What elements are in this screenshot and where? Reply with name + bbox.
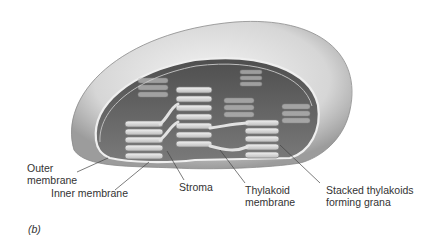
panel-label: (b) [28,223,41,235]
chloroplast-diagram [0,0,431,246]
label-outer-membrane-line2: membrane [27,174,77,186]
label-outer-membrane-line1: Outer [27,162,53,174]
label-inner-membrane: Inner membrane [51,187,128,199]
label-stacked-thylakoids-line2: forming grana [326,196,391,208]
label-thylakoid-membrane-line1: Thylakoid [245,184,290,196]
label-stroma: Stroma [179,181,213,193]
label-thylakoid-membrane-line2: membrane [245,196,295,208]
label-stacked-thylakoids-line1: Stacked thylakoids [326,184,414,196]
